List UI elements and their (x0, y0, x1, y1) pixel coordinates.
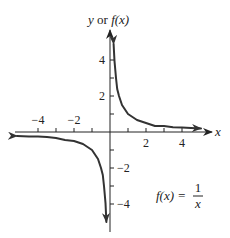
y-axis-label-fx: f(x) (111, 12, 129, 27)
curve-negative-branch (17, 136, 106, 222)
x-axis-label: x (214, 124, 221, 139)
y-tick-label-neg4: −4 (117, 197, 130, 211)
reciprocal-function-graph: −4 −2 2 4 4 2 −2 −4 y or f(x) x f(x) = 1… (0, 0, 230, 238)
y-axis-label-or: or (97, 12, 109, 27)
y-tick-label-neg2: −2 (117, 161, 130, 175)
function-label-denominator: x (194, 196, 201, 211)
function-label-numerator: 1 (195, 180, 202, 195)
x-tick-label-neg2: −2 (68, 113, 81, 127)
x-tick-label-neg4: −4 (32, 113, 45, 127)
y-axis-label: y or f(x) (86, 12, 129, 27)
y-axis-label-var: y (86, 12, 94, 27)
x-tick-label-4: 4 (179, 136, 185, 150)
curve-positive-branch (114, 44, 201, 128)
function-annotation: f(x) = 1 x (156, 180, 203, 211)
y-tick-label-2: 2 (99, 89, 105, 103)
y-tick-label-4: 4 (99, 53, 105, 67)
function-label-lhs: f(x) = (156, 188, 186, 203)
x-tick-label-2: 2 (143, 136, 149, 150)
